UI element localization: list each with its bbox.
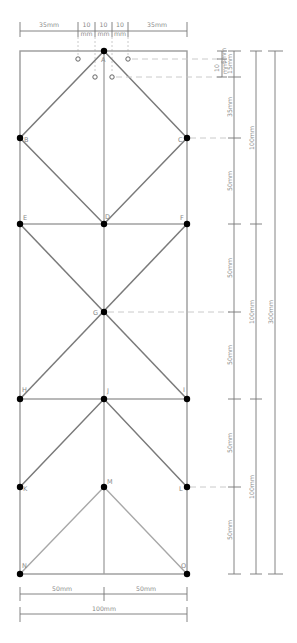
point-d — [101, 221, 107, 227]
label-n: N — [22, 562, 27, 570]
point-n — [17, 571, 23, 577]
pattern-diagram: 35mm 10 mm 10 mm 10 mm 35mm — [0, 0, 297, 643]
dim-top-seg2: 10 — [100, 21, 108, 28]
dim-50mm-4: 50mm — [226, 433, 233, 453]
label-a: A — [101, 56, 106, 64]
dim-100mm-3: 100mm — [248, 475, 255, 499]
point-j — [101, 396, 107, 402]
dim-50mm-1: 50mm — [226, 171, 233, 191]
dim-50mm-5: 50mm — [226, 520, 233, 540]
label-f: F — [180, 214, 184, 222]
dim-bottom-left: 50mm — [52, 585, 72, 592]
dim-bottom-right: 50mm — [136, 585, 156, 592]
label-j: J — [106, 387, 109, 395]
label-l: L — [179, 485, 183, 493]
point-g — [101, 309, 107, 315]
dim-top-seg1-unit: mm — [80, 30, 92, 37]
dim-300mm: 300mm — [267, 300, 274, 324]
dim-top-left: 35mm — [39, 21, 59, 28]
point-f — [184, 221, 190, 227]
dim-100mm-1: 100mm — [248, 126, 255, 150]
dim-top-right: 35mm — [147, 21, 167, 28]
dim-top-seg2-unit: mm — [97, 30, 109, 37]
point-h — [17, 396, 23, 402]
point-l — [184, 484, 190, 490]
label-g: G — [93, 309, 98, 317]
dim-top-seg3-unit: mm — [114, 30, 126, 37]
label-k: K — [23, 485, 28, 493]
label-e: E — [23, 214, 27, 222]
point-i — [184, 396, 190, 402]
label-b: B — [24, 136, 28, 144]
point-b — [17, 135, 23, 141]
hole-icon — [126, 57, 130, 61]
label-o: O — [181, 562, 186, 570]
right-dimensions: 5mm 10 mm 15mm 35mm 50mm 50mm 50mm 50mm … — [213, 48, 283, 574]
hole-icon — [76, 57, 80, 61]
label-i: I — [183, 386, 185, 394]
label-m: M — [107, 478, 113, 486]
dim-100mm-2: 100mm — [248, 300, 255, 324]
dim-top-seg3: 10 — [116, 21, 124, 28]
dim-35mm: 35mm — [226, 97, 233, 117]
point-a — [101, 48, 107, 54]
point-o — [184, 571, 190, 577]
hole-icon — [110, 75, 114, 79]
hole-icon — [93, 75, 97, 79]
label-h: H — [22, 386, 27, 394]
label-d: D — [105, 213, 110, 221]
dim-bottom-total: 100mm — [92, 605, 116, 612]
dim-10: 10 — [213, 64, 220, 72]
dim-top-seg1: 10 — [83, 21, 91, 28]
point-c — [184, 135, 190, 141]
dim-50mm-3: 50mm — [226, 345, 233, 365]
dim-15mm: 15mm — [226, 54, 233, 74]
label-c: C — [178, 136, 183, 144]
dim-50mm-2: 50mm — [226, 258, 233, 278]
bottom-dimensions: 50mm 50mm 100mm — [20, 585, 187, 622]
